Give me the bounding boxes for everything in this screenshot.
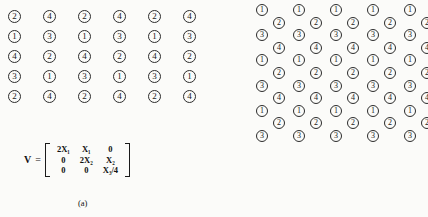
lattice-node: 4 — [421, 92, 428, 104]
lattice-node: 3 — [113, 30, 126, 43]
lattice-node: 3 — [293, 130, 305, 142]
lattice-node: 3 — [78, 70, 91, 83]
lattice-node: 2 — [347, 67, 359, 79]
lattice-node: 3 — [293, 80, 305, 92]
matrix-v: 2X₁X₁002X₂X₂00X₃/4 — [52, 144, 123, 176]
lattice-node: 4 — [113, 90, 126, 103]
lattice-node: 3 — [43, 30, 56, 43]
lattice-node: 1 — [404, 4, 416, 16]
lattice-b: 1111122222333334444411111222223333344444… — [256, 4, 428, 120]
lattice-row: 131313 — [8, 30, 208, 50]
lattice-row: 11111 — [256, 4, 428, 17]
lattice-row: 313131 — [8, 70, 208, 90]
lattice-node: 1 — [113, 70, 126, 83]
lattice-node: 2 — [421, 17, 428, 29]
lattice-node: 2 — [310, 117, 322, 129]
lattice-row: 22222 — [256, 67, 428, 80]
lattice-node: 4 — [113, 10, 126, 23]
lattice-node: 3 — [256, 80, 268, 92]
lattice-node: 2 — [273, 117, 285, 129]
lattice-node: 3 — [293, 29, 305, 41]
lattice-row: 22222 — [256, 17, 428, 30]
lattice-node: 2 — [384, 117, 396, 129]
lattice-node: 2 — [273, 17, 285, 29]
lattice-row: 11111 — [256, 105, 428, 118]
lattice-node: 2 — [273, 67, 285, 79]
lattice-node: 4 — [148, 50, 161, 63]
lattice-node: 1 — [293, 105, 305, 117]
matrix-row: 2X₁X₁0 — [52, 144, 123, 155]
lattice-node: 2 — [384, 17, 396, 29]
lattice-node: 1 — [330, 105, 342, 117]
lattice-node: 4 — [183, 90, 196, 103]
matrix-cell: X₁ — [75, 144, 98, 155]
panel-b: 1111122222333334444411111222223333344444… — [240, 0, 428, 217]
lattice-node: 4 — [310, 92, 322, 104]
lattice-node: 3 — [330, 80, 342, 92]
lattice-node: 4 — [43, 10, 56, 23]
lattice-node: 4 — [347, 92, 359, 104]
lattice-node: 3 — [183, 30, 196, 43]
lattice-row: 44444 — [256, 92, 428, 105]
lattice-row: 424242 — [8, 50, 208, 70]
lattice-node: 3 — [367, 29, 379, 41]
lattice-row: 11111 — [256, 54, 428, 67]
lattice-node: 2 — [113, 50, 126, 63]
lattice-node: 1 — [43, 70, 56, 83]
lattice-node: 1 — [367, 4, 379, 16]
lattice-node: 2 — [43, 50, 56, 63]
lattice-node: 3 — [404, 29, 416, 41]
lattice-node: 1 — [330, 4, 342, 16]
lattice-node: 2 — [78, 10, 91, 23]
lattice-row: 33333 — [256, 80, 428, 93]
lattice-row: 44444 — [256, 42, 428, 55]
lattice-node: 3 — [404, 80, 416, 92]
lattice-row: 33333 — [256, 29, 428, 42]
lattice-node: 1 — [78, 30, 91, 43]
lattice-row: 22222 — [256, 117, 428, 130]
matrix-brackets-v: 2X₁X₁002X₂X₂00X₃/4 — [45, 143, 130, 177]
lattice-node: 1 — [293, 54, 305, 66]
lattice-a: 242424131313424242313131242424 — [8, 10, 208, 118]
lattice-node: 2 — [8, 90, 21, 103]
lattice-node: 2 — [384, 67, 396, 79]
matrix-name-v: V — [24, 154, 31, 165]
lattice-node: 3 — [367, 80, 379, 92]
matrix-cell: 0 — [75, 165, 98, 176]
lattice-node: 4 — [273, 92, 285, 104]
lattice-node: 3 — [256, 29, 268, 41]
lattice-node: 3 — [148, 70, 161, 83]
lattice-node: 4 — [273, 42, 285, 54]
lattice-node: 1 — [367, 54, 379, 66]
lattice-node: 1 — [256, 105, 268, 117]
lattice-node: 4 — [78, 50, 91, 63]
lattice-node: 1 — [293, 4, 305, 16]
lattice-node: 1 — [148, 30, 161, 43]
matrix-row: 02X₂X₂ — [52, 155, 123, 166]
figure-container: 242424131313424242313131242424 V = 2X₁X₁… — [0, 0, 428, 217]
lattice-node: 2 — [148, 90, 161, 103]
matrix-cell: 0 — [52, 165, 75, 176]
lattice-node: 3 — [330, 130, 342, 142]
matrix-cell: X₃/4 — [98, 165, 123, 176]
lattice-node: 2 — [8, 10, 21, 23]
lattice-node: 1 — [256, 4, 268, 16]
lattice-row: 242424 — [8, 90, 208, 110]
lattice-node: 4 — [347, 42, 359, 54]
lattice-node: 1 — [256, 54, 268, 66]
matrix-cell: X₂ — [98, 155, 123, 166]
lattice-node: 4 — [421, 42, 428, 54]
matrix-cell: 0 — [98, 144, 123, 155]
lattice-node: 1 — [404, 54, 416, 66]
lattice-node: 2 — [310, 67, 322, 79]
lattice-node: 2 — [148, 10, 161, 23]
lattice-node: 4 — [43, 90, 56, 103]
lattice-node: 1 — [367, 105, 379, 117]
lattice-node: 2 — [78, 90, 91, 103]
lattice-node: 2 — [347, 17, 359, 29]
matrix-cell: 2X₁ — [52, 144, 75, 155]
caption-a: (a) — [78, 198, 87, 208]
lattice-node: 3 — [330, 29, 342, 41]
lattice-node: 4 — [384, 92, 396, 104]
lattice-node: 3 — [367, 130, 379, 142]
